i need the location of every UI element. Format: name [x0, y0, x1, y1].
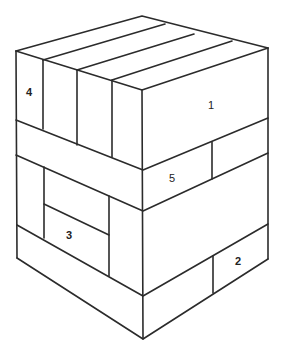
label-piece-1: 1 — [208, 99, 214, 111]
label-piece-3: 3 — [66, 229, 72, 241]
label-piece-2: 2 — [235, 255, 241, 267]
label-piece-4: 4 — [26, 86, 33, 98]
right-face — [142, 48, 268, 339]
label-piece-5: 5 — [169, 172, 175, 184]
block-cube-diagram: 1 2 3 4 5 — [0, 0, 286, 356]
left-face — [16, 51, 143, 339]
